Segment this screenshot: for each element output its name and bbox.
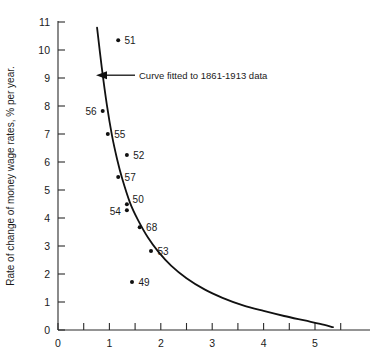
data-point: 54: [110, 206, 129, 217]
data-point: 49: [130, 277, 150, 288]
y-tick-label: 0: [44, 324, 50, 336]
data-point-dot: [106, 132, 110, 136]
y-tick-label: 4: [44, 212, 50, 224]
y-axis-title: Rate of change of money wage rates, % pe…: [5, 66, 16, 286]
y-axis-ticks: [58, 22, 65, 330]
y-tick-label: 6: [44, 156, 50, 168]
data-point-label: 68: [146, 222, 158, 233]
phillips-curve-chart: 0 1 2 3 4 5 6 7 8 9 10 11: [0, 0, 374, 361]
x-tick-label: 2: [158, 337, 164, 349]
data-point-dot: [101, 109, 105, 113]
data-point-dot: [125, 153, 129, 157]
data-point-dot: [125, 208, 129, 212]
data-point-label: 54: [110, 206, 122, 217]
y-tick-label: 3: [44, 240, 50, 252]
data-point-label: 49: [138, 277, 150, 288]
y-axis-tick-labels: 0 1 2 3 4 5 6 7 8 9 10 11: [38, 16, 50, 336]
x-tick-label: 3: [209, 337, 215, 349]
data-point-label: 53: [157, 246, 169, 257]
data-point-label: 51: [125, 35, 137, 46]
data-point: 52: [125, 150, 145, 161]
data-point: 53: [149, 246, 169, 257]
y-tick-label: 10: [38, 44, 50, 56]
data-point-dot: [116, 38, 120, 42]
data-point-label: 50: [133, 194, 145, 205]
data-point-label: 56: [85, 106, 97, 117]
data-point-label: 52: [133, 150, 145, 161]
data-point-label: 55: [114, 129, 126, 140]
annotation-label: Curve fitted to 1861-1913 data: [139, 70, 268, 81]
data-point-dot: [138, 225, 142, 229]
data-point: 55: [106, 129, 126, 140]
y-tick-label: 9: [44, 72, 50, 84]
y-tick-label: 8: [44, 100, 50, 112]
x-tick-label: 0: [55, 337, 61, 349]
data-point: 51: [116, 35, 136, 46]
y-tick-label: 7: [44, 128, 50, 140]
data-point-dot: [125, 202, 129, 206]
data-point: 57: [116, 172, 136, 183]
y-tick-label: 11: [39, 16, 50, 28]
x-tick-label: 4: [261, 337, 267, 349]
x-tick-label: 5: [312, 337, 318, 349]
data-point-dot: [130, 280, 134, 284]
data-point-dot: [116, 175, 120, 179]
y-tick-label: 1: [44, 296, 50, 308]
chart-canvas: 0 1 2 3 4 5 6 7 8 9 10 11: [0, 0, 374, 361]
y-tick-label: 5: [44, 184, 50, 196]
y-tick-label: 2: [44, 268, 50, 280]
data-point-dot: [149, 249, 153, 253]
data-point: 56: [85, 106, 104, 117]
x-axis-tick-labels: 0 1 2 3 4 5: [55, 337, 318, 349]
x-tick-label: 1: [106, 337, 112, 349]
data-point-label: 57: [125, 172, 137, 183]
